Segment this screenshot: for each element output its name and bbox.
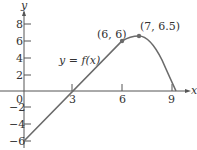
y-tick-neg6: −6 (9, 135, 25, 148)
x-tick-6: 6 (119, 93, 126, 106)
x-axis-label: x (191, 84, 197, 97)
x-ticks (72, 84, 172, 91)
y-tick-4: 4 (16, 52, 23, 65)
function-curve (24, 36, 176, 141)
y-tick-neg2: −2 (9, 101, 25, 114)
x-tick-9: 9 (168, 93, 175, 106)
point-7-6.5-label: (7, 6.5) (140, 20, 180, 33)
y-tick-neg4: −4 (9, 118, 25, 131)
y-tick-6: 6 (16, 35, 23, 48)
function-graph: y x 8 6 4 2 0 −2 −4 −6 3 6 9 (6, 6) (7, … (0, 0, 197, 150)
y-axis-label: y (20, 0, 28, 12)
y-tick-8: 8 (16, 18, 23, 31)
point-7-6.5-marker (137, 34, 141, 38)
function-label: y = f(x) (58, 54, 100, 67)
y-tick-2: 2 (16, 69, 23, 82)
point-6-6-label: (6, 6) (97, 28, 127, 41)
